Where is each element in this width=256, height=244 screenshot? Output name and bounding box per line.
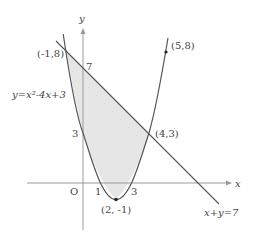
coordinate-diagram: y x O (-1,8) (5,8) (4,3) (2, -1) 7 3 1 3… [0, 0, 256, 244]
parabola-equation-label: y=x²-4x+3 [11, 89, 66, 100]
vertex-label: (2, -1) [101, 204, 131, 215]
point-vertex [114, 198, 118, 202]
point-label-neg1-8: (-1,8) [37, 48, 64, 59]
line-equation-label: x+y=7 [204, 207, 239, 218]
point-label-4-3: (4,3) [155, 128, 179, 139]
y-axis-arrow-icon [81, 28, 86, 34]
y-intercept-3-label: 3 [72, 128, 78, 139]
x-axis-label: x [235, 178, 241, 189]
y-axis-label: y [78, 13, 85, 24]
point-5-8 [164, 50, 167, 53]
x-intercept-3-label: 3 [131, 186, 137, 197]
y-intercept-7-label: 7 [86, 61, 92, 72]
x-axis-arrow-icon [226, 181, 232, 186]
point-label-5-8: (5,8) [171, 40, 195, 51]
origin-label: O [70, 186, 78, 197]
x-intercept-1-label: 1 [95, 186, 101, 197]
shaded-region [67, 51, 150, 200]
